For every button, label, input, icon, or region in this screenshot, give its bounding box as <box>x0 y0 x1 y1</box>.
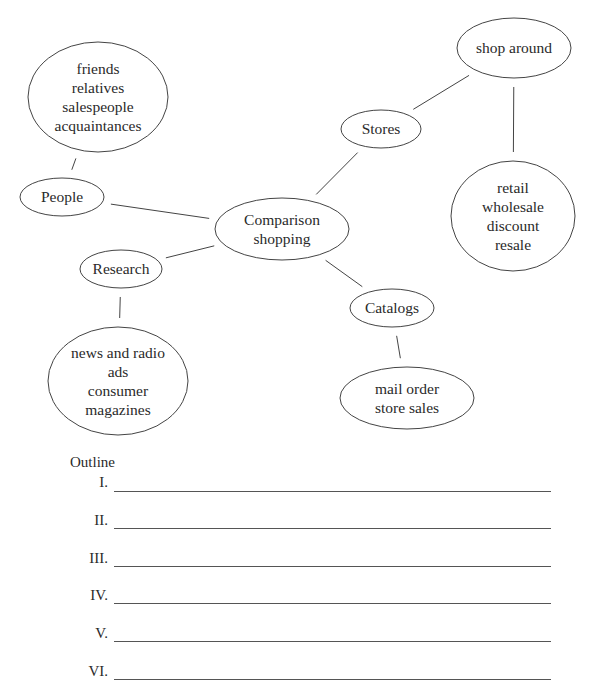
outline-blank-line[interactable] <box>114 641 551 642</box>
outline-numeral: IV. <box>90 587 108 604</box>
outline-numeral: III. <box>89 550 108 567</box>
outline-item: I. <box>0 474 613 498</box>
outline-blank-line[interactable] <box>114 528 551 529</box>
outline-numeral: I. <box>99 474 108 491</box>
outline-title: Outline <box>70 454 115 471</box>
outline-numeral: V. <box>95 625 108 642</box>
outline-item: VI. <box>0 663 613 687</box>
outline-numeral: VI. <box>88 663 108 680</box>
outline-item: V. <box>0 625 613 649</box>
outline-item: III. <box>0 550 613 574</box>
outline-blank-line[interactable] <box>114 491 551 492</box>
outline-item: II. <box>0 512 613 536</box>
outline-numeral: II. <box>94 512 108 529</box>
outline-blank-line[interactable] <box>114 679 551 680</box>
outline-section: Outline I. II. III. IV. V. VI. <box>0 0 613 697</box>
outline-item: IV. <box>0 587 613 611</box>
outline-blank-line[interactable] <box>114 603 551 604</box>
outline-blank-line[interactable] <box>114 566 551 567</box>
